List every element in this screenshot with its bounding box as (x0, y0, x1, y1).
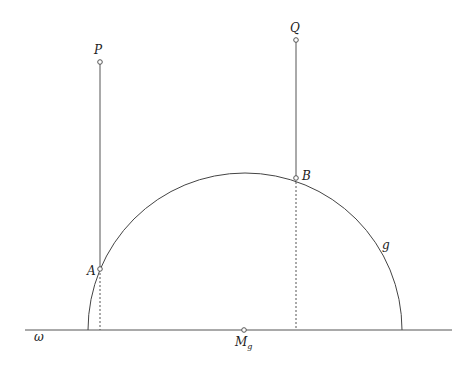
geometry-diagram: P Q A B g ω Mg (0, 0, 471, 368)
point-P[interactable] (98, 60, 103, 65)
semicircle-g (88, 173, 402, 330)
point-Mg[interactable] (242, 328, 247, 333)
label-Mg: Mg (234, 335, 252, 351)
label-A: A (86, 264, 96, 278)
diagram-canvas: P Q A B g ω Mg (0, 0, 471, 368)
point-A[interactable] (98, 267, 103, 272)
label-omega: ω (34, 330, 44, 344)
label-P: P (93, 43, 103, 57)
point-Q[interactable] (294, 38, 299, 43)
label-g: g (382, 238, 390, 252)
label-Q: Q (290, 21, 300, 35)
label-B: B (301, 169, 311, 183)
point-B[interactable] (294, 176, 299, 181)
